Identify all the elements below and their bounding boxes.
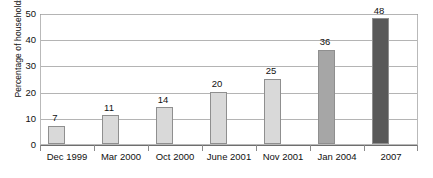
bar-group: 11 xyxy=(95,15,149,144)
bar-group: 7 xyxy=(41,15,95,144)
bar-group: 36 xyxy=(311,15,365,144)
x-axis-category-label: Nov 2001 xyxy=(256,152,310,162)
bar-value-label: 36 xyxy=(307,37,343,47)
bar[interactable] xyxy=(156,107,173,144)
bar-group: 25 xyxy=(257,15,311,144)
bar-group: 14 xyxy=(149,15,203,144)
bars-layer: 7111420253648 xyxy=(41,15,417,144)
y-axis-tick-label: 20 xyxy=(18,88,36,98)
bar[interactable] xyxy=(372,18,389,144)
y-axis-tick-label: 0 xyxy=(18,140,36,150)
bar-group: 48 xyxy=(365,15,419,144)
bar-value-label: 20 xyxy=(199,79,235,89)
x-axis-tick xyxy=(94,145,95,151)
x-axis-category-label: 2007 xyxy=(364,152,418,162)
x-axis-tick-labels: Dec 1999Mar 2000Oct 2000June 2001Nov 200… xyxy=(40,152,418,172)
y-axis-tick-label: 30 xyxy=(18,62,36,72)
x-axis-tick xyxy=(417,145,418,151)
x-axis-category-label: Oct 2000 xyxy=(148,152,202,162)
x-axis-tick xyxy=(202,145,203,151)
plot-area: 7111420253648 xyxy=(40,14,418,145)
bar-value-label: 7 xyxy=(37,113,73,123)
bar-value-label: 25 xyxy=(253,66,289,76)
y-axis-tick-label: 40 xyxy=(18,35,36,45)
y-axis-tick-label: 10 xyxy=(18,114,36,124)
x-axis-tick xyxy=(256,145,257,151)
x-axis-tick xyxy=(310,145,311,151)
bar[interactable] xyxy=(264,79,281,145)
x-axis-tick xyxy=(40,145,41,151)
bar-chart: Percentage of households 01020304050 711… xyxy=(0,0,433,178)
bar-value-label: 11 xyxy=(91,103,127,113)
bar-value-label: 48 xyxy=(361,6,397,16)
bar[interactable] xyxy=(48,126,65,144)
bar[interactable] xyxy=(318,50,335,144)
bar[interactable] xyxy=(102,115,119,144)
y-axis-tick-labels: 01020304050 xyxy=(18,14,36,145)
bar[interactable] xyxy=(210,92,227,144)
x-axis-category-label: Mar 2000 xyxy=(94,152,148,162)
x-axis-category-label: Jan 2004 xyxy=(310,152,364,162)
y-axis-tick-label: 50 xyxy=(18,9,36,19)
x-axis-tick xyxy=(364,145,365,151)
x-axis-tick xyxy=(148,145,149,151)
bar-group: 20 xyxy=(203,15,257,144)
x-axis-category-label: June 2001 xyxy=(202,152,256,162)
x-axis-category-label: Dec 1999 xyxy=(40,152,94,162)
bar-value-label: 14 xyxy=(145,95,181,105)
